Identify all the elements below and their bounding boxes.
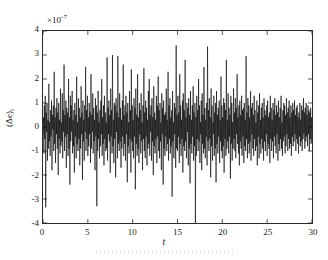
x-axis-label: t — [0, 236, 328, 247]
y-tick-label: -1 — [21, 145, 39, 155]
signal-trace — [43, 31, 312, 223]
trace-polyline — [43, 45, 312, 223]
scan-artifact — [96, 249, 236, 255]
y-tick-label: 0 — [21, 121, 39, 131]
y-tick-label: 2 — [21, 73, 39, 83]
y-tick-label: 3 — [21, 48, 39, 58]
y-axis-label-subscript: i — [8, 109, 16, 111]
y-axis-exponent-label: ×10-7 — [47, 13, 67, 25]
y-axis-label: (Δe)i — [4, 96, 16, 140]
y-tick-label: 4 — [21, 24, 39, 34]
y-tick-label: -2 — [21, 170, 39, 180]
y-axis-label-main: (Δe) — [4, 111, 14, 127]
y-tick-label: -3 — [21, 194, 39, 204]
y-tick-label: 1 — [21, 97, 39, 107]
exponent-prefix: ×10 — [47, 15, 61, 25]
figure-canvas: ×10-7 43210-1-2-3-4 051015202530 t (Δe)i — [0, 0, 328, 260]
plot-area — [42, 30, 313, 224]
exponent-value: -7 — [61, 13, 67, 21]
